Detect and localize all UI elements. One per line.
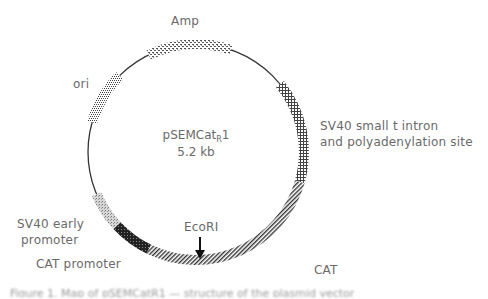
feature-arc-cat-promoter — [113, 222, 150, 253]
feature-arc-cat — [146, 180, 304, 265]
plasmid-name-prefix: pSEMCat — [163, 128, 217, 142]
feature-arc-amp — [146, 39, 232, 59]
label-cat: CAT — [314, 262, 338, 278]
label-sv40-early-line2: promoter — [21, 232, 78, 248]
label-amp: Amp — [171, 13, 199, 29]
plasmid-size: 5.2 kb — [150, 144, 242, 161]
feature-arc-sv40-intron — [276, 81, 309, 183]
label-sv40-early-line1: SV40 early — [17, 216, 84, 232]
label-ori: ori — [73, 76, 89, 92]
plasmid-name-suffix: 1 — [222, 128, 230, 142]
label-ecori: EcoRI — [184, 219, 218, 235]
label-cat-promoter: CAT promoter — [36, 256, 121, 272]
label-sv40-intron-line1: SV40 small t intron — [320, 118, 438, 134]
label-sv40-intron-line2: and polyadenylation site — [320, 134, 473, 150]
feature-arc-ori — [87, 72, 123, 124]
feature-arc-sv40-early — [92, 192, 121, 229]
figure-caption: Figure 1. Map of pSEMCatR1 — structure o… — [10, 287, 480, 297]
